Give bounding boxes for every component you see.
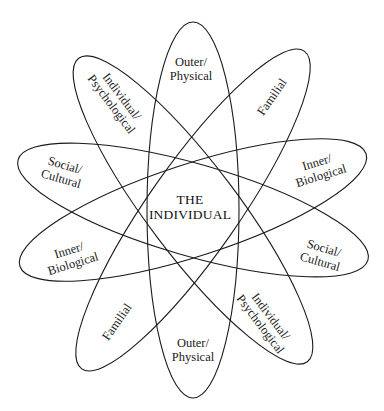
label-social-cultural-left: Social/ Cultural (39, 153, 87, 191)
label-social-cultural-right: Social/ Cultural (298, 236, 346, 274)
label-line: Physical (172, 350, 215, 364)
individual-dimensions-diagram: THE INDIVIDUAL Outer/ Physical Outer/ Ph… (0, 0, 384, 411)
label-individual-psychological-bottom: Individual/ Psychological (234, 284, 298, 357)
center-label: THE INDIVIDUAL (149, 192, 231, 222)
label-line: Familial (254, 75, 290, 118)
label-familial-bottom: Familial (99, 300, 135, 343)
label-outer-physical-bottom: Outer/ Physical (172, 336, 215, 364)
center-label-line2: INDIVIDUAL (149, 207, 231, 222)
label-inner-biological-left: Inner/ Biological (42, 236, 100, 278)
center-label-line1: THE (177, 192, 204, 207)
label-line: Outer/ (175, 55, 207, 69)
label-line: Outer/ (177, 336, 209, 350)
label-line: Familial (99, 300, 135, 343)
label-outer-physical-top: Outer/ Physical (170, 55, 213, 83)
label-inner-biological-right: Inner/ Biological (290, 148, 348, 190)
label-familial-top: Familial (254, 75, 290, 118)
label-individual-psychological-top: Individual/ Psychological (85, 64, 149, 137)
label-line: Physical (170, 69, 213, 83)
